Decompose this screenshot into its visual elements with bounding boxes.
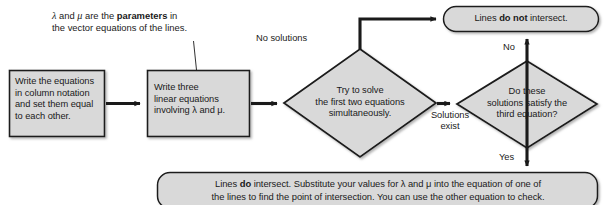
- annotation-line-1: λ and μ are the parameters in: [52, 10, 187, 22]
- edge-label-solutions-exist-line-2: exist: [425, 121, 475, 132]
- node-write-three-linear: [148, 71, 250, 137]
- edge-label-yes: Yes: [499, 152, 514, 163]
- node-write-equations: [10, 71, 105, 137]
- connector-no-solutions: [360, 19, 436, 49]
- annotation-text-a: are the: [82, 10, 116, 21]
- node-try-to-solve: [284, 49, 436, 157]
- annotation-leader-line: [194, 41, 197, 70]
- annotation-line-2: the vector equations of the lines.: [52, 22, 187, 34]
- edge-label-solutions-exist-line-1: Solutions: [425, 110, 475, 121]
- edge-label-solutions-exist: Solutions exist: [425, 110, 475, 133]
- edge-label-no-solutions: No solutions: [256, 33, 307, 44]
- annotation-bold-parameters: parameters: [117, 10, 168, 21]
- node-lines-do-intersect: [158, 173, 598, 206]
- annotation-parameters-note: λ and μ are the parameters in the vector…: [52, 10, 187, 35]
- annotation-conjunction: and: [56, 10, 77, 21]
- flowchart-canvas: λ and μ are the parameters in the vector…: [0, 0, 608, 205]
- edge-label-no: No: [503, 42, 515, 53]
- node-lines-do-not-intersect: [444, 7, 599, 32]
- annotation-text-b: in: [167, 10, 177, 21]
